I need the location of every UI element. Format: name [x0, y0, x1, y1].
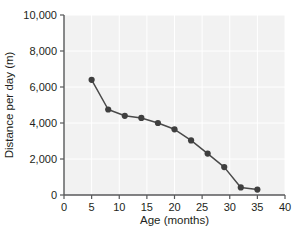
x-tick-label: 20 — [168, 201, 180, 213]
x-tick-label: 10 — [113, 201, 125, 213]
y-axis-title: Distance per day (m) — [3, 51, 15, 158]
chart-figure: 0510152025303540 02,0004,0006,0008,00010… — [0, 0, 297, 236]
data-point — [254, 187, 260, 193]
data-point — [155, 120, 161, 126]
y-tick-label: 6,000 — [29, 81, 57, 93]
x-tick-label: 15 — [141, 201, 153, 213]
data-point — [238, 184, 244, 190]
data-point — [89, 77, 95, 83]
x-tick-label: 5 — [89, 201, 95, 213]
x-tick-label: 0 — [61, 201, 67, 213]
y-tick-label: 10,000 — [23, 9, 57, 21]
data-point — [221, 164, 227, 170]
y-tick-label: 8,000 — [29, 45, 57, 57]
x-tick-label: 30 — [224, 201, 236, 213]
data-point — [171, 126, 177, 132]
data-point — [188, 137, 194, 143]
data-point — [205, 151, 211, 157]
line-chart: 0510152025303540 02,0004,0006,0008,00010… — [0, 0, 297, 236]
x-tick-label: 25 — [196, 201, 208, 213]
y-tick-label: 0 — [51, 189, 57, 201]
y-tick-label: 4,000 — [29, 117, 57, 129]
data-point — [105, 106, 111, 112]
data-point — [138, 115, 144, 121]
x-tick-label: 35 — [251, 201, 263, 213]
data-point — [122, 113, 128, 119]
x-tick-label: 40 — [279, 201, 291, 213]
y-tick-label: 2,000 — [29, 153, 57, 165]
x-axis-title: Age (months) — [140, 214, 209, 226]
